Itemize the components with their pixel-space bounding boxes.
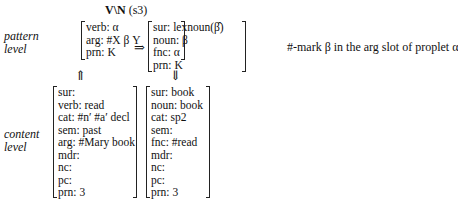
fs-line: fnc: α [153, 46, 241, 59]
left-bracket [146, 86, 150, 198]
pattern-level-label: pattern level [4, 30, 39, 56]
fs-line: nc: [58, 161, 132, 174]
fs-line: pc: [58, 174, 132, 187]
fs-line: prn: 3 [58, 186, 132, 199]
fs-line: cat: sp2 [151, 111, 205, 124]
right-bracket [133, 86, 137, 198]
fs-line: sur: [58, 86, 132, 99]
label-line: level [4, 43, 39, 56]
left-bracket [53, 86, 57, 198]
right-bracket [242, 21, 246, 72]
content-right-fs: sur: book noun: book cat: sp2 sem: fnc: … [151, 86, 205, 198]
up-arrow-icon: ⇑ [75, 68, 86, 84]
right-bracket [206, 86, 210, 198]
fs-line: prn: 3 [151, 186, 205, 199]
fs-line: cat: #n′ #a′ decl [58, 111, 132, 124]
fs-line: sem: past [58, 124, 132, 137]
fs-line: sur: book [151, 86, 205, 99]
rule-title: V\N (s3) [105, 3, 147, 18]
fs-line: prn: K [153, 59, 241, 72]
rule-label: (s3) [129, 3, 148, 17]
fs-line: arg: #Mary book [58, 136, 132, 149]
fs-line: mdr: [151, 149, 205, 162]
fs-line: mdr: [58, 149, 132, 162]
left-bracket [148, 21, 152, 72]
fs-line: sur: lexnoun(β̂) [153, 21, 241, 34]
fs-line: verb: read [58, 99, 132, 112]
content-level-label: content level [4, 128, 39, 154]
rule-arrow-icon: ⇒ [134, 40, 145, 56]
label-line: level [4, 141, 39, 154]
pattern-right-fs: sur: lexnoun(β̂) noun: β fnc: α prn: K [153, 21, 241, 72]
fs-line: nc: [151, 161, 205, 174]
content-left-fs: sur: verb: read cat: #n′ #a′ decl sem: p… [58, 86, 132, 198]
rule-name: V\N [105, 3, 126, 17]
fs-line: noun: book [151, 99, 205, 112]
fs-line: pc: [151, 174, 205, 187]
fs-line: fnc: #read [151, 136, 205, 149]
rule-note: #-mark β in the arg slot of proplet α [287, 40, 458, 55]
down-arrow-icon: ⇓ [170, 68, 181, 84]
fs-line: noun: β [153, 34, 241, 47]
left-bracket [81, 21, 85, 60]
fs-line: sem: [151, 124, 205, 137]
